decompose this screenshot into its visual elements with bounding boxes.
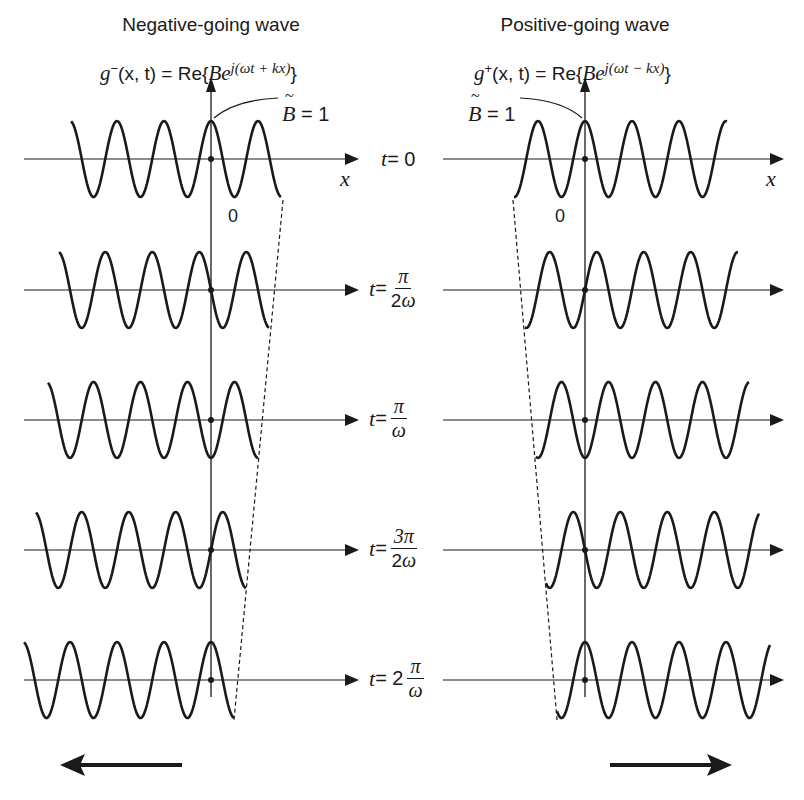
formula-exponent: j(ωt + kx) [231,60,291,76]
right-origin-label: 0 [555,206,565,227]
left-amplitude-leader [214,98,278,118]
formula-exponent: j(ωt − kx) [605,60,665,76]
left-tracking-dashed-line [234,200,283,720]
right-x-arrow-icon [770,284,784,296]
time-label: t = 2πω [369,655,424,702]
time-label: t = 0 [381,146,415,172]
right-x-arrow-icon [770,414,784,426]
formula-B: B [582,61,595,85]
left-x-arrow-icon [345,674,359,686]
left-x-arrow-icon [345,284,359,296]
time-fraction: πω [391,395,407,442]
right-x-arrow-icon [770,544,784,556]
left-x-arrow-icon [345,153,359,165]
origin-dot [582,156,588,162]
right-formula: g+(x, t) = Re{Bej(ωt − kx)} [474,60,671,86]
left-x-label: x [340,166,350,192]
formula-B: B [208,61,221,85]
time-value: = 2 [375,667,403,690]
b-value: = 1 [481,103,515,125]
formula-args: (x, t) = Re{ [118,63,208,84]
formula-func: g [100,61,111,85]
b-value: = 1 [295,103,329,125]
b-symbol: B [468,101,481,126]
right-x-arrow-icon [770,153,784,165]
left-title: Negative-going wave [96,14,326,36]
origin-dot [208,677,214,683]
time-value: = [375,407,387,430]
formula-close: } [664,63,670,84]
origin-dot [582,417,588,423]
left-x-arrow-icon [345,544,359,556]
formula-e: e [221,61,230,85]
time-fraction: 3π2ω [391,525,417,572]
formula-func: g [474,61,485,85]
formula-close: } [290,63,296,84]
left-x-arrow-icon [345,414,359,426]
time-fraction: πω [407,655,423,702]
time-label: t = πω [369,395,407,442]
origin-dot [208,156,214,162]
left-origin-label: 0 [228,206,238,227]
time-value: = [375,277,387,300]
right-x-arrow-icon [770,674,784,686]
right-amplitude-label: B = 1 [468,101,515,127]
origin-dot [208,417,214,423]
formula-e: e [595,61,604,85]
right-tracking-dashed-line [513,200,557,720]
left-formula: g−(x, t) = Re{Bej(ωt + kx)} [100,60,297,86]
formula-args: (x, t) = Re{ [492,63,582,84]
time-value: = 0 [387,148,415,171]
time-value: = [375,537,387,560]
formula-sign: − [111,61,119,76]
right-amplitude-leader [520,98,582,118]
time-label: t = 3π2ω [369,525,417,572]
time-fraction: π2ω [391,265,416,312]
wave-diagram: Negative-going wave Positive-going wave … [0,0,804,800]
origin-dot [582,677,588,683]
b-symbol: B [282,101,295,126]
left-amplitude-label: B = 1 [282,101,329,127]
formula-sign: + [485,61,493,76]
right-x-label: x [766,166,776,192]
right-title: Positive-going wave [470,14,700,36]
time-label: t = π2ω [369,265,416,312]
